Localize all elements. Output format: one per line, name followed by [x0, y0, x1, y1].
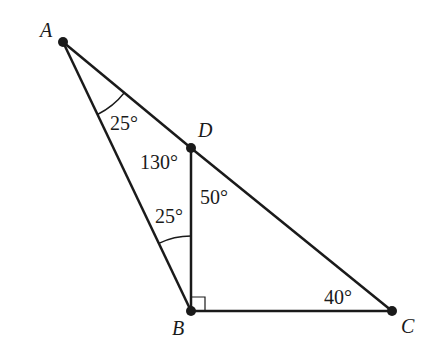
label-c: C: [401, 316, 414, 336]
angle-label-d-50: 50°: [200, 187, 228, 207]
point-a: [58, 37, 68, 47]
label-a: A: [40, 20, 52, 40]
triangle-diagram: [0, 0, 436, 353]
point-d: [186, 143, 196, 153]
point-b: [186, 306, 196, 316]
segment-dc: [191, 148, 392, 311]
point-c: [387, 306, 397, 316]
angle-label-c: 40°: [324, 287, 352, 307]
label-d: D: [198, 120, 212, 140]
angle-label-a: 25°: [110, 113, 138, 133]
label-b: B: [172, 318, 184, 338]
segment-ab: [63, 42, 191, 311]
angle-label-d-130: 130°: [140, 152, 178, 172]
angle-arc-b: [159, 236, 191, 243]
angle-label-b: 25°: [155, 206, 183, 226]
